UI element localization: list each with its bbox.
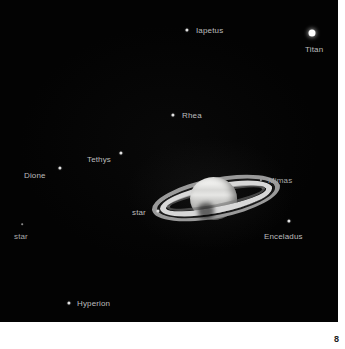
object-label-star-left: star [14,232,28,241]
saturn-planet [146,163,286,233]
object-marker-titan [309,30,316,37]
object-label-titan: Titan [305,45,323,54]
object-label-iapetus: Iapetus [196,26,223,35]
object-label-tethys: Tethys [87,155,111,164]
object-label-mimas: Mimas [268,176,292,185]
object-label-hyperion: Hyperion [77,299,110,308]
page-sheet: IapetusTitanRheaTethysDioneMimasstarEnce… [0,0,345,349]
object-marker-star-left [21,223,23,225]
object-marker-dione [58,166,61,169]
object-marker-hyperion [67,301,70,304]
object-label-dione: Dione [24,171,46,180]
object-label-star-center: star [132,208,146,217]
sky-background [0,0,338,322]
object-label-enceladus: Enceladus [264,232,303,241]
object-marker-iapetus [185,28,188,31]
object-marker-rhea [171,113,174,116]
object-marker-tethys [119,151,122,154]
astrophoto-plate: IapetusTitanRheaTethysDioneMimasstarEnce… [0,0,338,322]
page-number: 8 [334,334,339,344]
object-marker-enceladus [287,219,290,222]
object-label-rhea: Rhea [182,111,202,120]
